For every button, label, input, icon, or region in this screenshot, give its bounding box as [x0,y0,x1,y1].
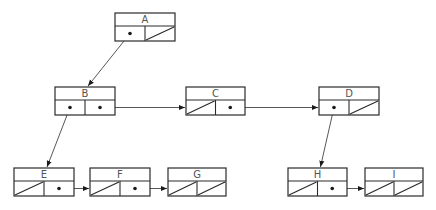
node-label: G [193,169,201,180]
pointer-dot-icon [330,187,334,191]
arrow-b-to-e [47,108,70,168]
arrow-d-to-h [320,108,334,168]
node-label: E [41,169,47,180]
pointer-dot-icon [128,32,132,36]
pointer-dot-icon [133,187,137,191]
node-f: F [90,168,150,196]
node-h: H [288,168,347,196]
pointer-dot-icon [98,106,102,110]
pointer-dot-icon [228,106,232,110]
node-label: H [314,169,322,180]
node-label: D [345,88,353,99]
node-label: A [142,14,149,25]
node-i: I [365,168,423,196]
pointer-dot-icon [68,106,72,110]
node-e: E [14,168,74,196]
node-label: I [393,169,396,180]
node-label: C [212,88,219,99]
node-b: B [55,87,115,115]
node-a: A [115,13,175,41]
node-label: B [82,88,89,99]
tree-diagram: ABCDEFGHI [0,0,436,210]
node-d: D [319,87,379,115]
node-label: F [117,169,123,180]
pointer-dot-icon [332,106,336,110]
pointer-dot-icon [57,187,61,191]
nodes: ABCDEFGHI [14,13,423,196]
node-c: C [186,87,245,115]
node-g: G [168,168,226,196]
